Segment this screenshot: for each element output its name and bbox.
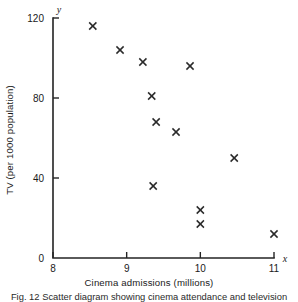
scatter-plot-canvas: 04080120891011yxCinema admissions (milli… bbox=[0, 0, 298, 302]
data-point-group bbox=[89, 22, 277, 237]
plot-axes bbox=[53, 18, 274, 258]
data-point-marker bbox=[172, 128, 179, 135]
x-axis-title: Cinema admissions (millions) bbox=[85, 277, 214, 288]
data-point-marker bbox=[148, 92, 155, 99]
y-axis-symbol: y bbox=[56, 4, 62, 15]
figure-caption: Fig. 12 Scatter diagram showing cinema a… bbox=[0, 291, 298, 302]
data-point-marker bbox=[270, 230, 277, 237]
y-axis-title: TV (per 1000 population) bbox=[4, 85, 15, 195]
x-axis-tick-label: 9 bbox=[124, 263, 130, 274]
x-axis-symbol: x bbox=[282, 253, 288, 264]
x-axis-tick-label: 11 bbox=[269, 263, 280, 274]
y-axis-tick-label: 80 bbox=[33, 93, 45, 104]
data-point-marker bbox=[197, 206, 204, 213]
data-point-marker bbox=[153, 118, 160, 125]
y-axis-tick-label: 120 bbox=[27, 13, 44, 24]
data-point-marker bbox=[139, 58, 146, 65]
scatter-plot-figure: 04080120891011yxCinema admissions (milli… bbox=[0, 0, 298, 302]
data-point-marker bbox=[150, 182, 157, 189]
y-axis-tick-label: 0 bbox=[38, 253, 44, 264]
data-point-marker bbox=[116, 46, 123, 53]
x-axis-tick-label: 10 bbox=[195, 263, 207, 274]
data-point-marker bbox=[197, 220, 204, 227]
x-axis-tick-label: 8 bbox=[50, 263, 56, 274]
data-point-marker bbox=[89, 22, 96, 29]
data-point-marker bbox=[186, 62, 193, 69]
data-point-marker bbox=[231, 154, 238, 161]
y-axis-tick-label: 40 bbox=[33, 173, 45, 184]
